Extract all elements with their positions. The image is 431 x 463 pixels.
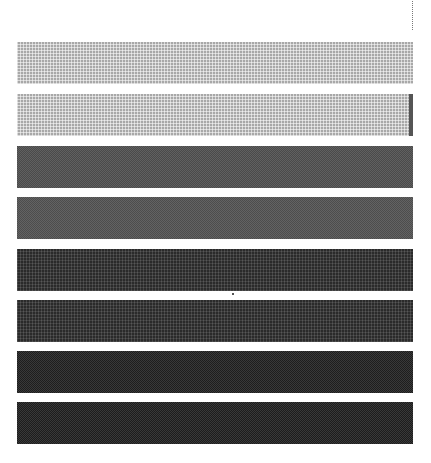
bar-edge-mark <box>409 94 413 136</box>
dotted-marker-line <box>412 0 413 31</box>
gray-bar-1 <box>17 42 413 84</box>
gray-bar-3 <box>17 146 413 188</box>
gray-bar-4 <box>17 197 413 239</box>
gray-bar-8 <box>17 402 413 444</box>
gray-bar-7 <box>17 351 413 393</box>
gray-bar-2 <box>17 94 413 136</box>
gray-bar-6 <box>17 300 413 342</box>
gray-bar-5 <box>17 249 413 291</box>
speck <box>232 293 234 295</box>
